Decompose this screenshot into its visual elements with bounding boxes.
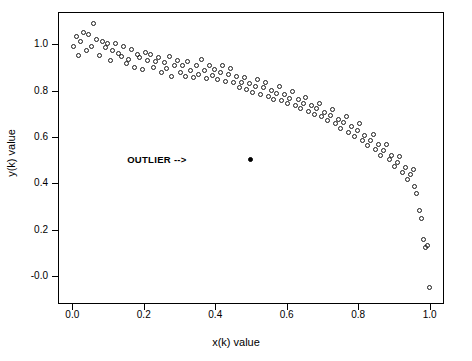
data-point bbox=[148, 52, 153, 57]
data-point bbox=[368, 138, 373, 143]
data-point bbox=[306, 109, 311, 114]
outlier-annotation: OUTLIER --> bbox=[127, 154, 187, 165]
data-point bbox=[89, 44, 94, 49]
y-axis-label: y(k) value bbox=[5, 93, 17, 213]
data-point bbox=[411, 167, 416, 172]
data-point bbox=[202, 68, 207, 73]
data-point bbox=[100, 39, 105, 44]
data-point bbox=[395, 160, 400, 165]
data-point bbox=[71, 44, 76, 49]
data-point bbox=[425, 243, 430, 248]
data-point bbox=[277, 84, 282, 89]
data-point bbox=[210, 73, 215, 78]
data-point bbox=[81, 30, 86, 35]
data-point bbox=[76, 53, 81, 58]
data-point bbox=[242, 75, 247, 80]
data-point bbox=[325, 118, 330, 123]
x-axis-label: x(k) value bbox=[0, 336, 472, 348]
data-point bbox=[191, 75, 196, 80]
data-point bbox=[253, 84, 258, 89]
y-axis-tick bbox=[52, 44, 58, 45]
data-point bbox=[223, 79, 228, 84]
data-point bbox=[108, 58, 113, 63]
data-point bbox=[328, 113, 333, 118]
data-point bbox=[234, 74, 239, 79]
data-point bbox=[301, 101, 306, 106]
y-axis-tick-label: 1.0 bbox=[18, 38, 48, 49]
data-point bbox=[239, 80, 244, 85]
data-point bbox=[164, 66, 169, 71]
data-point bbox=[336, 117, 341, 122]
data-point bbox=[231, 80, 236, 85]
y-axis-tick bbox=[52, 276, 58, 277]
x-axis-tick-label: 0.2 bbox=[124, 309, 164, 320]
data-point bbox=[317, 101, 322, 106]
data-point bbox=[360, 138, 365, 143]
scatter-plot: 0.00.20.40.60.81.0-0.00.20.40.60.81.0 OU… bbox=[0, 0, 472, 361]
y-axis-tick bbox=[52, 91, 58, 92]
x-axis-tick-label: 0.8 bbox=[338, 309, 378, 320]
y-axis-tick-label: 0.8 bbox=[18, 85, 48, 96]
data-point bbox=[121, 44, 126, 49]
x-axis-tick-label: 1.0 bbox=[410, 309, 450, 320]
data-point bbox=[389, 153, 394, 158]
y-axis-tick bbox=[52, 137, 58, 138]
data-point bbox=[175, 58, 180, 63]
data-point bbox=[119, 54, 124, 59]
data-point bbox=[124, 61, 129, 66]
x-axis-tick-label: 0.0 bbox=[52, 309, 92, 320]
data-point bbox=[349, 124, 354, 129]
data-point bbox=[427, 285, 432, 290]
data-point bbox=[293, 103, 298, 108]
data-point bbox=[151, 65, 156, 70]
data-point bbox=[355, 128, 360, 133]
y-axis-tick bbox=[52, 230, 58, 231]
y-axis-tick-label: 0.2 bbox=[18, 224, 48, 235]
x-axis-tick-label: 0.4 bbox=[195, 309, 235, 320]
data-point bbox=[143, 50, 148, 55]
y-axis-tick-label: 0.6 bbox=[18, 131, 48, 142]
data-point bbox=[285, 101, 290, 106]
data-point bbox=[183, 74, 188, 79]
data-point bbox=[140, 67, 145, 72]
data-point bbox=[400, 170, 405, 175]
data-point bbox=[199, 57, 204, 62]
y-axis-tick bbox=[52, 183, 58, 184]
data-point bbox=[266, 94, 271, 99]
data-point bbox=[250, 90, 255, 95]
data-point bbox=[352, 134, 357, 139]
x-axis-tick-label: 0.6 bbox=[267, 309, 307, 320]
data-point bbox=[296, 97, 301, 102]
data-point bbox=[312, 112, 317, 117]
data-point bbox=[371, 132, 376, 137]
data-point bbox=[346, 130, 351, 135]
data-point bbox=[269, 88, 274, 93]
y-axis-tick-label: 0.4 bbox=[18, 177, 48, 188]
data-point bbox=[162, 60, 167, 65]
data-point bbox=[309, 103, 314, 108]
data-point bbox=[132, 65, 137, 70]
y-axis-tick-label: -0.0 bbox=[18, 270, 48, 281]
data-point bbox=[196, 72, 201, 77]
data-point bbox=[226, 72, 231, 77]
data-point bbox=[373, 147, 378, 152]
